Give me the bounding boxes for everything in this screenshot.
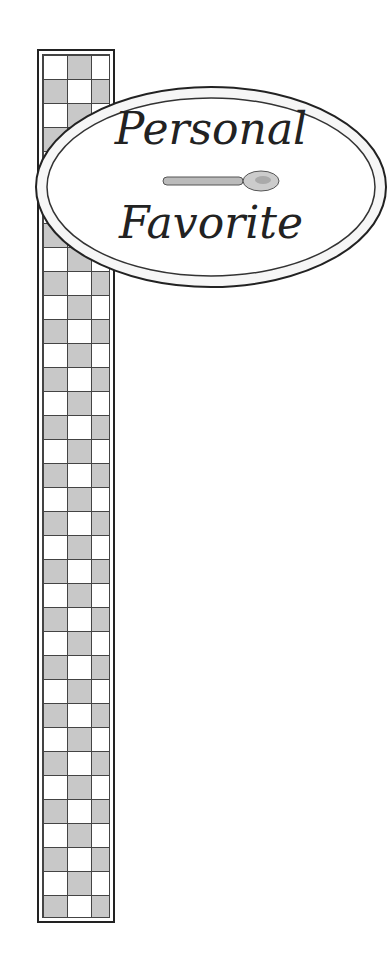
sign-title-line2: Favorite (33, 197, 389, 248)
oval-sign: Personal Favorite (33, 85, 389, 290)
sign-title-line1: Personal (33, 103, 389, 154)
